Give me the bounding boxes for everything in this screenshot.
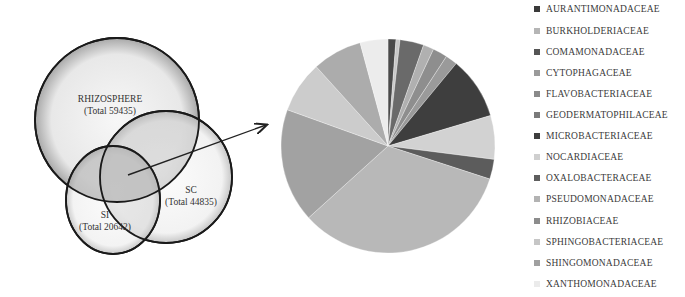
legend-label: CYTOPHAGACEAE <box>546 68 632 78</box>
legend-swatch <box>534 91 540 97</box>
legend-label: OXALOBACTERACEAE <box>546 173 652 183</box>
legend-swatch <box>534 218 540 224</box>
legend-label: XANTHOMONADACEAE <box>546 279 657 289</box>
legend-swatch <box>534 133 540 139</box>
legend-item: PSEUDOMONADACEAE <box>534 192 654 206</box>
legend-label: SPHINGOBACTERIACEAE <box>546 237 663 247</box>
legend-label: SHINGOMONADACEAE <box>546 258 653 268</box>
venn-diagram: RHIZOSPHERE (Total 59435) SC (Total 4483… <box>0 0 280 297</box>
legend-swatch <box>534 239 540 245</box>
legend-item: SHINGOMONADACEAE <box>534 256 653 270</box>
pie-slices <box>281 39 495 253</box>
legend-label: AURANTIMONADACEAE <box>546 4 660 14</box>
pie-chart <box>270 30 510 270</box>
legend-label: BURKHOLDERIACEAE <box>546 26 649 36</box>
si-total: (Total 20642) <box>79 222 131 233</box>
legend-swatch <box>534 154 540 160</box>
legend-label: RHIZOBIACEAE <box>546 216 619 226</box>
legend-label: NOCARDIACEAE <box>546 152 623 162</box>
legend-label: PSEUDOMONADACEAE <box>546 194 654 204</box>
legend-item: MICROBACTERIACEAE <box>534 129 653 143</box>
legend-item: CYTOPHAGACEAE <box>534 66 632 80</box>
legend-swatch <box>534 6 540 12</box>
legend-swatch <box>534 49 540 55</box>
sc-total: (Total 44835) <box>165 197 217 208</box>
legend-item: RHIZOBIACEAE <box>534 214 619 228</box>
legend-item: SPHINGOBACTERIACEAE <box>534 235 663 249</box>
legend-item: OXALOBACTERACEAE <box>534 171 652 185</box>
legend-swatch <box>534 281 540 287</box>
legend-label: MICROBACTERIACEAE <box>546 131 653 141</box>
legend-label: GEODERMATOPHILACEAE <box>546 110 668 120</box>
legend-swatch <box>534 28 540 34</box>
legend-item: NOCARDIACEAE <box>534 150 623 164</box>
legend-label: COMAMONADACEAE <box>546 47 645 57</box>
legend-item: BURKHOLDERIACEAE <box>534 24 649 38</box>
legend-label: FLAVOBACTERIACEAE <box>546 89 652 99</box>
legend-swatch <box>534 196 540 202</box>
rhizosphere-label: RHIZOSPHERE <box>78 94 143 104</box>
legend-swatch <box>534 70 540 76</box>
legend-item: AURANTIMONADACEAE <box>534 2 660 16</box>
legend-swatch <box>534 260 540 266</box>
legend-swatch <box>534 175 540 181</box>
legend-item: GEODERMATOPHILACEAE <box>534 108 668 122</box>
legend-item: COMAMONADACEAE <box>534 45 645 59</box>
legend-swatch <box>534 112 540 118</box>
legend-item: XANTHOMONADACEAE <box>534 277 657 291</box>
rhizosphere-total: (Total 59435) <box>84 106 136 117</box>
sc-label: SC <box>185 185 197 195</box>
legend-item: FLAVOBACTERIACEAE <box>534 87 652 101</box>
si-label: SI <box>101 210 109 220</box>
